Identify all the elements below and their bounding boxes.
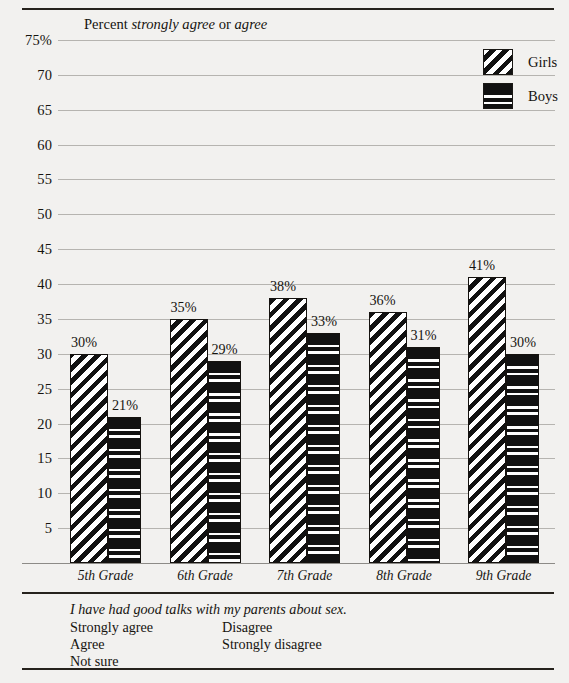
y-axis-tick-label: 50 [6,207,52,222]
footer-block: I have had good talks with my parents ab… [70,600,540,671]
bar-boys [108,417,141,563]
chart-title: Percent strongly agree or agree [84,16,267,33]
bar-value-label-boys: 33% [311,314,337,328]
gridline [58,179,555,180]
gridline [58,75,555,76]
legend-swatch-girls-icon [483,49,513,75]
y-axis-tick-label: 15 [6,451,52,466]
axis-baseline [22,563,555,564]
legend-label-girls: Girls [528,55,557,70]
bar-value-label-girls: 35% [171,300,197,314]
bar-value-label-girls: 30% [71,335,97,349]
y-axis-tick-label: 30 [6,347,52,362]
y-axis-tick-label: 75% [6,33,52,48]
y-axis-tick-label: 40 [6,277,52,292]
x-axis-label: 9th Grade [446,568,561,584]
bar-girls [468,277,506,563]
y-axis-tick-label: 60 [6,138,52,153]
bar-value-label-boys: 29% [212,342,238,356]
y-axis-tick-label: 35 [6,312,52,327]
bar-girls [269,298,307,563]
chart-title-plain: Percent [84,16,128,32]
y-axis-tick-label: 20 [6,417,52,432]
bar-boys [307,333,340,563]
bar-girls [70,354,108,563]
y-axis-tick-label: 65 [6,103,52,118]
gridline [58,214,555,215]
bar-value-label-girls: 41% [469,258,495,272]
legend-item-boys: Boys [483,83,558,109]
response-options-column-2: Disagree Strongly disagree [222,619,462,671]
bar-girls [369,312,407,563]
y-axis-tick-label: 5 [6,521,52,536]
y-axis-tick-label: 10 [6,486,52,501]
response-option: Strongly agree [70,619,222,636]
gridline [58,40,555,41]
axis-separator-rule [22,592,554,594]
bar-boys [208,361,241,563]
bar-boys [506,354,539,563]
x-axis-label: 6th Grade [148,568,263,584]
chart-title-mid: or [219,16,231,32]
gridline [58,110,555,111]
bottom-border-rule [22,668,554,670]
x-axis-label: 7th Grade [247,568,362,584]
bar-value-label-girls: 36% [370,293,396,307]
bar-value-label-boys: 21% [112,398,138,412]
response-option: Agree [70,636,222,653]
chart-plot-area: Percent strongly agree or agree Girls Bo… [0,0,569,683]
chart-title-italic-2: agree [235,16,268,32]
legend-swatch-boys-icon [483,83,513,109]
legend-item-girls: Girls [483,49,557,75]
y-axis-tick-label: 70 [6,68,52,83]
bar-boys [407,347,440,563]
response-option: Strongly disagree [222,636,462,653]
bar-value-label-girls: 38% [270,279,296,293]
bar-value-label-boys: 31% [411,328,437,342]
x-axis-label: 8th Grade [347,568,462,584]
gridline [58,145,555,146]
chart-title-italic-1: strongly agree [131,16,215,32]
y-axis-tick-label: 55 [6,172,52,187]
gridline [58,249,555,250]
x-axis-label: 5th Grade [48,568,163,584]
survey-question: I have had good talks with my parents ab… [70,600,540,618]
response-option: Disagree [222,619,462,636]
response-options-column-1: Strongly agree Agree Not sure [70,619,222,671]
response-options: Strongly agree Agree Not sure Disagree S… [70,619,540,671]
legend-label-boys: Boys [528,89,558,104]
bar-value-label-boys: 30% [510,335,536,349]
y-axis-tick-label: 25 [6,382,52,397]
bar-girls [170,319,208,563]
y-axis-tick-label: 45 [6,242,52,257]
